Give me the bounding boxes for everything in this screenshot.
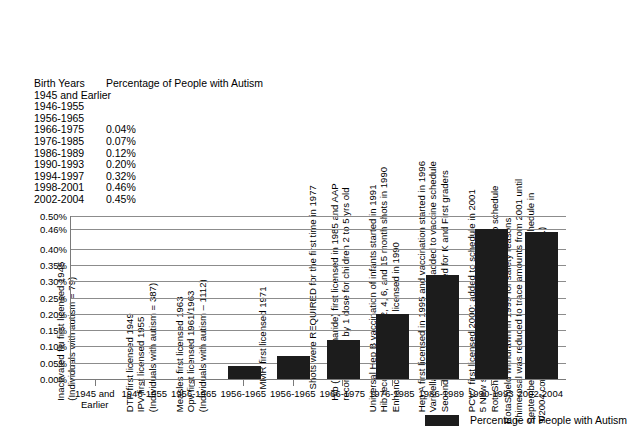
x-axis-tick xyxy=(540,379,541,386)
chart-legend: Percentage of People with Autism xyxy=(425,414,627,426)
chart-plot-area: 0.50%0.46%0.40%0.35%0.30%0.25%0.20%0.15%… xyxy=(70,216,565,379)
table-cell-percentage: 0.07% xyxy=(106,136,136,148)
table-body: 1945 and Earlier1946-19551956-19651966-1… xyxy=(34,90,263,206)
bar xyxy=(525,232,558,379)
bar xyxy=(327,340,360,379)
autism-percentage-table: Birth Years Percentage of People with Au… xyxy=(34,78,263,206)
x-axis-tick xyxy=(243,379,244,386)
x-axis-tick xyxy=(144,379,145,386)
table-row: 1976-19850.07% xyxy=(34,136,263,148)
table-cell-birth-years: 2002-2004 xyxy=(34,194,106,206)
y-axis-tick-label: 0.40% xyxy=(25,243,67,254)
table-row: 2002-20040.45% xyxy=(34,194,263,206)
gridline xyxy=(71,216,566,217)
y-axis-tick-label: 0.10% xyxy=(25,341,67,352)
y-axis-tick-label: 0.00% xyxy=(25,374,67,385)
table-cell-percentage: 0.20% xyxy=(106,159,136,171)
y-axis-tick-label: 0.15% xyxy=(25,325,67,336)
bar xyxy=(475,229,508,379)
bar xyxy=(277,356,310,379)
x-axis-tick xyxy=(392,379,393,386)
table-cell-birth-years: 1976-1985 xyxy=(34,136,106,148)
bar xyxy=(376,314,409,379)
y-axis-tick-label: 0.46% xyxy=(25,224,67,235)
x-axis-tick xyxy=(491,379,492,386)
y-axis-tick-label: 0.30% xyxy=(25,276,67,287)
y-axis-tick-label: 0.25% xyxy=(25,292,67,303)
y-axis-tick-label: 0.05% xyxy=(25,357,67,368)
bar xyxy=(426,275,459,379)
legend-label: Percentage of People with Autism xyxy=(470,414,627,426)
table-header-birth-years: Birth Years xyxy=(34,78,106,90)
x-axis-tick xyxy=(293,379,294,386)
y-axis-tick-label: 0.50% xyxy=(25,211,67,222)
table-cell-birth-years: 1990-1993 xyxy=(34,159,106,171)
legend-swatch-icon xyxy=(425,415,459,426)
x-axis-tick-label: 2002-2004 xyxy=(503,388,577,399)
x-axis-tick xyxy=(342,379,343,386)
table-header-percentage: Percentage of People with Autism xyxy=(106,78,263,90)
x-axis-tick xyxy=(441,379,442,386)
y-axis-tick-label: 0.20% xyxy=(25,308,67,319)
y-axis-tick-label: 0.35% xyxy=(25,259,67,270)
table-row: 1990-19930.20% xyxy=(34,159,263,171)
x-axis-tick xyxy=(95,379,96,386)
table-cell-percentage: 0.45% xyxy=(106,194,136,206)
bar xyxy=(228,366,261,379)
table-header-row: Birth Years Percentage of People with Au… xyxy=(34,78,263,90)
x-axis-tick xyxy=(194,379,195,386)
